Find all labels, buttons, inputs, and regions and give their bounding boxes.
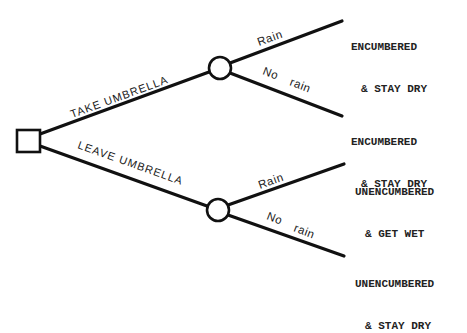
outcome-line-1: ENCUMBERED [351,40,427,54]
outcome-line-1: ENCUMBERED [351,135,427,149]
edge-take-no-rain [230,73,342,116]
label-take-no-rain-word2: rain [288,76,312,95]
label-leave-no-rain-word1: No [265,210,284,227]
label-take-no-rain-word1: No [261,65,280,82]
outcome-line-2: & GET WET [355,227,434,241]
edge-take-rain [230,21,342,63]
outcome-leave-no-rain: UNENCUMBERED & STAY DRY [355,249,434,333]
outcome-line-2: & STAY DRY [351,82,427,96]
decision-node-square [17,130,40,152]
chance-node-take-umbrella [209,57,231,79]
outcome-line-2: & STAY DRY [355,319,434,333]
label-take-umbrella: TAKE UMBRELLA [69,73,170,120]
edge-leave-rain [228,164,344,205]
edge-take-umbrella [40,72,209,134]
outcome-line-1: UNENCUMBERED [355,185,434,199]
outcome-line-1: UNENCUMBERED [355,277,434,291]
edge-leave-no-rain [228,215,344,256]
chance-node-leave-umbrella [207,199,229,221]
outcome-take-rain: ENCUMBERED & STAY DRY [351,12,427,110]
outcome-leave-rain: UNENCUMBERED & GET WET [355,157,434,255]
